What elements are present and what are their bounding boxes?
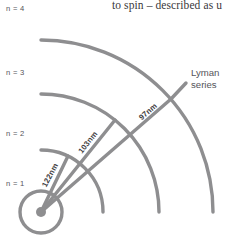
shell-label-n4: n = 4 <box>6 4 25 13</box>
transition-line-97nm <box>41 99 171 212</box>
shell-label-n1: n = 1 <box>6 179 25 188</box>
shell-label-n3: n = 3 <box>6 68 25 77</box>
nucleus-dot <box>36 207 46 217</box>
lyman-series-label: Lyman series <box>191 67 219 91</box>
orbit-arc-n4 <box>41 40 213 212</box>
figure-canvas: to spin – described as u n = 4 n = 3 n =… <box>0 0 237 243</box>
shell-label-n2: n = 2 <box>6 129 25 138</box>
lyman-series-leader-line <box>171 83 186 99</box>
lyman-series-label-line2: series <box>191 79 219 91</box>
bohr-model-diagram <box>0 0 237 243</box>
lyman-series-label-line1: Lyman <box>191 67 219 79</box>
